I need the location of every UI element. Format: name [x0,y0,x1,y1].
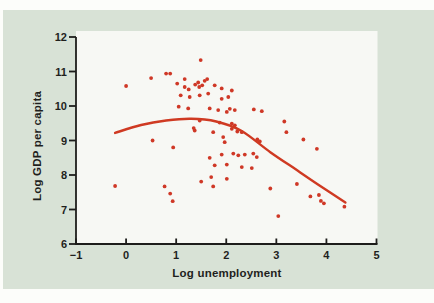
chart-canvas: 6789101112−1012345 Log unemployment Log … [0,0,434,303]
x-tick-label: −1 [70,249,83,261]
scatter-point [260,109,264,113]
scatter-point [211,185,215,189]
y-tick-label: 12 [55,31,67,43]
scatter-point [255,155,259,159]
scatter-point [188,95,192,99]
scatter-point [317,193,321,197]
scatter-point [113,184,117,188]
scatter-point [322,201,326,205]
scatter-point [198,93,202,97]
scatter-point [196,81,200,85]
scatter-point [302,138,306,142]
x-tick-label: 4 [323,249,330,261]
scatter-point [124,84,128,88]
scatter-point [230,89,234,93]
scatter-point [187,88,191,92]
scatter-point [309,195,313,199]
scatter-point [343,205,347,209]
scatter-point [193,129,197,133]
scatter-point [151,139,155,143]
scatter-point [225,163,229,167]
scatter-point [209,175,213,179]
y-tick-label: 8 [61,169,67,181]
scatter-point [183,77,187,81]
plot-area [76,31,378,244]
scatter-point [168,72,172,76]
scatter-point [149,76,153,80]
x-tick-label: 5 [373,249,379,261]
x-axis-title: Log unemployment [172,267,281,279]
scatter-point [231,152,235,156]
scatter-point [171,146,175,150]
scatter-point [213,83,217,87]
scatter-point [186,107,190,111]
scatter-point [199,180,203,184]
y-tick-label: 9 [61,135,67,147]
scatter-point [177,105,181,109]
scatter-point [251,152,255,156]
scatter-point [163,185,167,189]
scatter-point [175,82,179,86]
scatter-point [233,108,237,112]
scatter-point [295,182,299,186]
x-tick-label: 0 [123,249,129,261]
scatter-point [282,120,286,124]
scatter-point [250,166,254,170]
x-tick-label: 2 [223,249,229,261]
scatter-point [220,153,224,157]
y-tick-label: 7 [61,204,67,216]
scatter-point [216,108,220,112]
scatter-point [208,107,212,111]
scatter-point [211,130,215,134]
x-tick-label: 1 [173,249,179,261]
scatter-point [225,177,229,181]
scatter-point [240,165,244,169]
y-axis-title: Log GDP per capita [31,91,43,202]
figure-container: 6789101112−1012345 Log unemployment Log … [0,0,434,303]
scatter-point [208,156,212,160]
scatter-point [199,58,203,62]
scatter-point [226,95,230,99]
scatter-point [276,214,280,218]
scatter-point [205,77,209,81]
y-tick-label: 10 [55,100,67,112]
scatter-point [319,199,323,203]
scatter-point [168,192,172,196]
scatter-point [220,97,224,101]
scatter-point [179,93,183,97]
scatter-point [268,187,272,191]
scatter-point [200,83,204,87]
y-tick-label: 6 [61,238,67,250]
scatter-point [221,135,225,139]
scatter-point [285,130,289,134]
scatter-point [220,87,224,91]
scatter-point [223,140,227,144]
scatter-point [213,163,217,167]
scatter-point [252,108,256,112]
scatter-point [164,72,168,76]
scatter-point [236,153,240,157]
scatter-point [225,110,229,114]
scatter-point [315,147,319,151]
scatter-point [206,92,210,96]
scatter-point [243,153,247,157]
scatter-point [228,107,232,111]
x-tick-label: 3 [273,249,279,261]
scatter-point [183,85,187,89]
scatter-point [171,199,175,203]
y-tick-label: 11 [55,66,67,78]
